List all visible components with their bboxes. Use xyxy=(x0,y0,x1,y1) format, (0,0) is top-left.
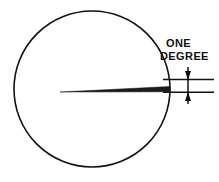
one-degree-diagram: ONE DEGREE xyxy=(0,0,219,182)
annotation-line-one: ONE xyxy=(166,37,191,50)
annotation-line-degree: DEGREE xyxy=(160,50,209,63)
arrowhead-down-icon xyxy=(185,71,191,80)
diagram-canvas xyxy=(0,0,219,182)
one-degree-wedge xyxy=(60,87,170,93)
arrowhead-up-icon xyxy=(185,92,191,101)
